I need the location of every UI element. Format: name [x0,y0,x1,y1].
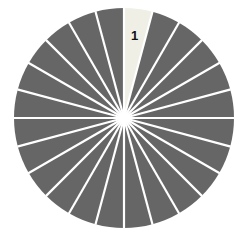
pie-center-hub [121,115,127,121]
pie-chart-svg: 1 [0,0,249,235]
pie-labels-group: 1 [131,28,138,43]
pie-dividers-group [14,8,235,229]
pie-slice-label: 1 [131,28,138,43]
pie-chart-figure: 1 [0,0,249,235]
